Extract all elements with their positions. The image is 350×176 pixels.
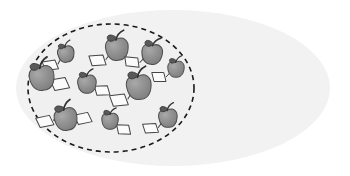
price-tag [94,86,110,96]
price-tag [89,55,106,66]
price-tag [116,125,131,134]
apple-body [101,113,118,130]
apple-body [77,75,96,94]
apple-highlight [171,65,175,68]
set-diagram-svg [0,0,350,176]
price-tag [124,57,140,68]
apple-body [168,61,185,77]
diagram-canvas [0,0,350,176]
price-tag [152,73,166,82]
price-tag [109,94,128,107]
price-tag [143,123,159,133]
